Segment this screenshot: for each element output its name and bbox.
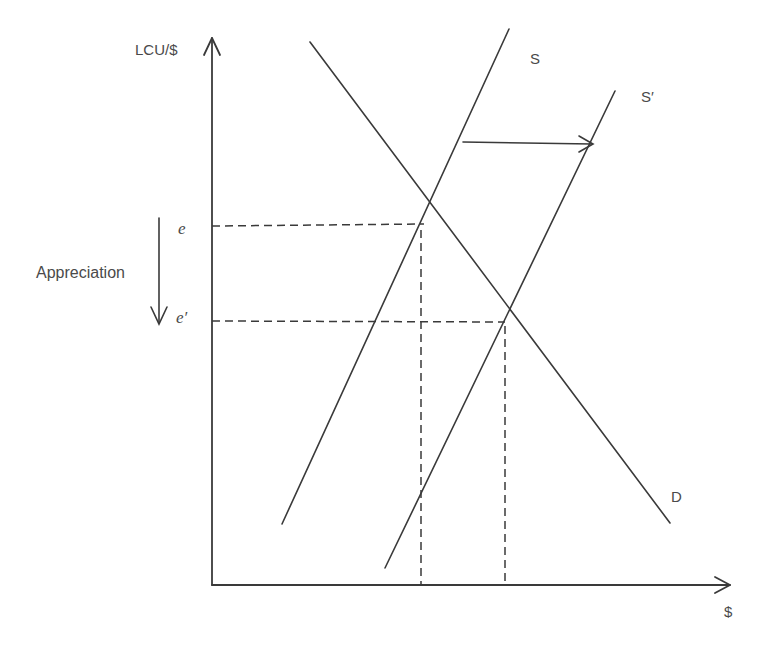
demand-curve-d xyxy=(310,42,670,523)
supply-shift-arrow xyxy=(463,136,593,152)
supply-curve-s-prime-label: S′ xyxy=(641,88,654,105)
y-axis-label: LCU/$ xyxy=(135,41,178,58)
x-axis xyxy=(212,577,730,593)
y-axis xyxy=(204,38,220,585)
equilibrium-e-label: e xyxy=(178,219,186,238)
demand-curve-d-label: D xyxy=(671,488,682,505)
supply-curve-s xyxy=(282,29,509,524)
equilibrium-e-prime-horizontal-guide xyxy=(212,321,505,322)
x-axis-label: $ xyxy=(724,603,733,620)
supply-curve-s-prime xyxy=(385,91,615,568)
equilibrium-e-horizontal-guide xyxy=(212,224,424,226)
appreciation-label: Appreciation xyxy=(36,264,125,281)
equilibrium-e-prime-label: e′ xyxy=(176,308,188,327)
exchange-rate-diagram: LCU/$ $ S S′ D e e′ Appreciation xyxy=(0,0,766,647)
appreciation-arrow xyxy=(151,218,167,324)
supply-curve-s-label: S xyxy=(530,50,540,67)
